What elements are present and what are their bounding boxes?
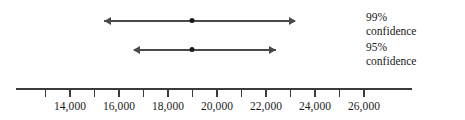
x-axis-tick: [94, 90, 96, 97]
interval-line-95: [134, 49, 276, 51]
x-axis-tick: [192, 90, 194, 97]
x-axis-tick: [45, 90, 47, 97]
x-axis-tick: [241, 90, 243, 97]
x-axis-tick: [167, 90, 169, 97]
confidence-interval-chart: 99% confidence 95% confidence 14,00016,0…: [0, 0, 465, 120]
x-axis-tick-label: 16,000: [103, 100, 135, 112]
confidence-interval-99: [104, 15, 295, 27]
x-axis-tick-label: 24,000: [299, 100, 331, 112]
x-axis-tick-label: 18,000: [152, 100, 184, 112]
legend-entry-95: 95% confidence: [366, 41, 416, 68]
legend-label-95-line2: confidence: [366, 55, 416, 69]
x-axis-line: [16, 88, 412, 90]
arrow-right-icon-99: [289, 17, 296, 25]
x-axis-tick: [69, 90, 71, 97]
x-axis-tick: [265, 90, 267, 97]
confidence-interval-95: [134, 44, 276, 56]
x-axis-tick: [339, 90, 341, 97]
x-axis-tick: [314, 90, 316, 97]
legend-label-99-line1: 99%: [366, 11, 416, 25]
legend-label-95-line1: 95%: [366, 41, 416, 55]
x-axis-tick: [143, 90, 145, 97]
x-axis-tick: [290, 90, 292, 97]
legend-label-99-line2: confidence: [366, 25, 416, 39]
arrow-left-icon-99: [104, 17, 111, 25]
x-axis-tick-label: 26,000: [348, 100, 380, 112]
x-axis-tick-label: 20,000: [201, 100, 233, 112]
arrow-left-icon-95: [133, 46, 140, 54]
arrow-right-icon-95: [269, 46, 276, 54]
x-axis-tick-label: 14,000: [54, 100, 86, 112]
x-axis-tick: [118, 90, 120, 97]
point-estimate-dot-95: [190, 47, 195, 52]
x-axis-tick-label: 22,000: [250, 100, 282, 112]
x-axis-tick: [216, 90, 218, 97]
x-axis-tick: [363, 90, 365, 97]
point-estimate-dot-99: [190, 18, 195, 23]
legend-entry-99: 99% confidence: [366, 11, 416, 38]
interval-line-99: [104, 20, 295, 22]
